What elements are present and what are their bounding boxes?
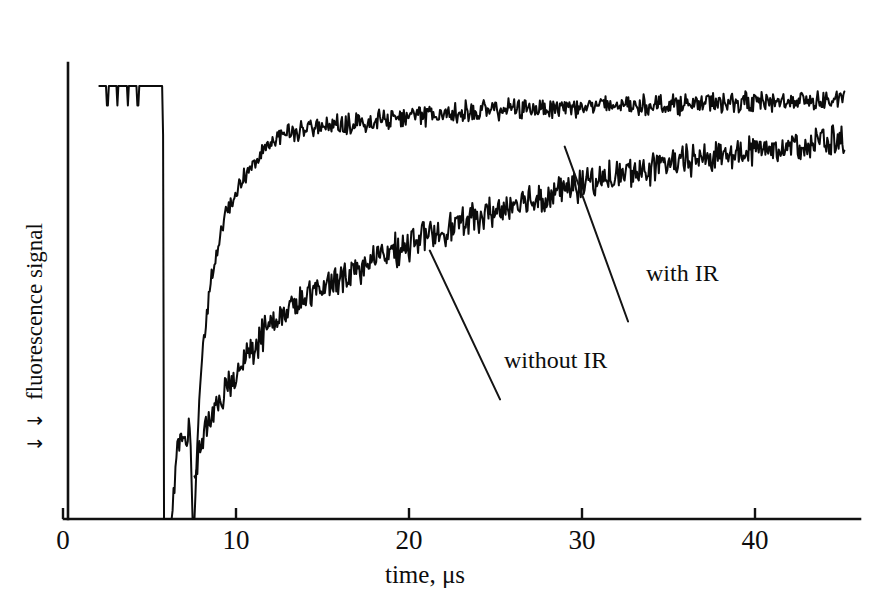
y-axis-title: fluorescence signal [22, 223, 47, 400]
x-axis-tick-label: 10 [223, 525, 250, 555]
x-axis-tick-label: 0 [56, 525, 70, 555]
x-axis-ticks [63, 508, 755, 519]
figure-container: 010203040 with IR without IR time, μs fl… [0, 0, 887, 607]
trace-with-ir [99, 86, 844, 519]
annotation-without-ir: without IR [504, 347, 607, 373]
leader-line-without-ir [430, 251, 500, 400]
y-axis-arrows-group: ↓ ↓ [23, 412, 47, 452]
x-axis-title: time, μs [385, 561, 465, 588]
trace-without-ir [194, 125, 844, 478]
annotation-with-ir: with IR [646, 260, 719, 286]
x-axis-tick-label: 30 [569, 525, 596, 555]
y-axis-title-group: fluorescence signal [22, 223, 47, 400]
down-arrow-icon: ↓ ↓ [23, 412, 47, 452]
x-axis-tick-label: 40 [742, 525, 769, 555]
x-axis-tick-labels: 010203040 [56, 525, 768, 555]
fluorescence-decay-chart: 010203040 with IR without IR time, μs fl… [0, 0, 887, 607]
x-axis-tick-label: 20 [396, 525, 423, 555]
